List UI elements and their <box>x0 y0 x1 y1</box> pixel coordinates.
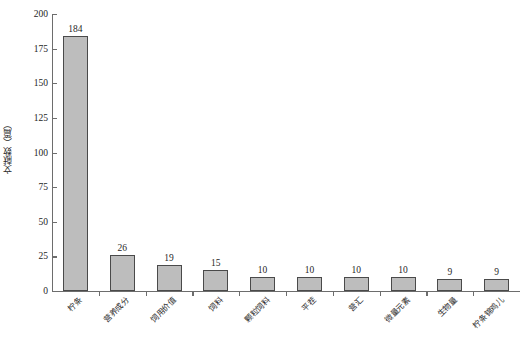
bar <box>110 255 135 291</box>
bar <box>250 277 275 291</box>
bar-value-label: 9 <box>430 267 470 277</box>
y-tick-label: 25 <box>18 251 48 261</box>
bar-value-label: 9 <box>477 267 517 277</box>
x-tick-label: 柠条锦鸡儿 <box>471 295 506 330</box>
x-tick-label: 营养成分 <box>102 295 132 325</box>
bar-value-label: 26 <box>102 243 142 253</box>
bar <box>203 270 228 291</box>
x-tick-label: 营汇 <box>348 295 366 313</box>
plot-area: 1842619151010101099 <box>52 14 520 291</box>
bar-value-label: 15 <box>196 258 236 268</box>
x-tick-label: 饲用价值 <box>149 295 179 325</box>
bar-value-label: 10 <box>383 265 423 275</box>
y-tick-label: 150 <box>18 78 48 88</box>
bar <box>484 279 509 291</box>
x-tick-label: 颗粒饲料 <box>242 295 272 325</box>
x-tick-label: 柠条 <box>67 295 85 313</box>
x-tick-label: 生物量 <box>435 295 459 319</box>
x-axis-tick-labels: 柠条营养成分饲用价值饲料颗粒饲料平茬营汇微量元素生物量柠条锦鸡儿 <box>0 293 527 354</box>
bar-value-label: 184 <box>55 24 95 34</box>
y-tick-label: 175 <box>18 44 48 54</box>
bar-value-label: 19 <box>149 253 189 263</box>
x-tick-label: 饲料 <box>207 295 225 313</box>
bar <box>63 36 88 291</box>
x-tick-label: 微量元素 <box>383 295 413 325</box>
bar <box>391 277 416 291</box>
y-tick-label: 125 <box>18 113 48 123</box>
y-tick-label: 200 <box>18 9 48 19</box>
bar <box>437 279 462 291</box>
bar-value-label: 10 <box>336 265 376 275</box>
bar <box>344 277 369 291</box>
bar-value-label: 10 <box>243 265 283 275</box>
bar-value-label: 10 <box>289 265 329 275</box>
bar-chart: 文献数（篇） 0255075100125150175200 1842619151… <box>0 0 527 354</box>
bar <box>157 265 182 291</box>
bar <box>297 277 322 291</box>
y-tick-label: 75 <box>18 182 48 192</box>
y-tick-label: 50 <box>18 217 48 227</box>
y-tick-label: 100 <box>18 148 48 158</box>
x-tick-label: 平茬 <box>301 295 319 313</box>
